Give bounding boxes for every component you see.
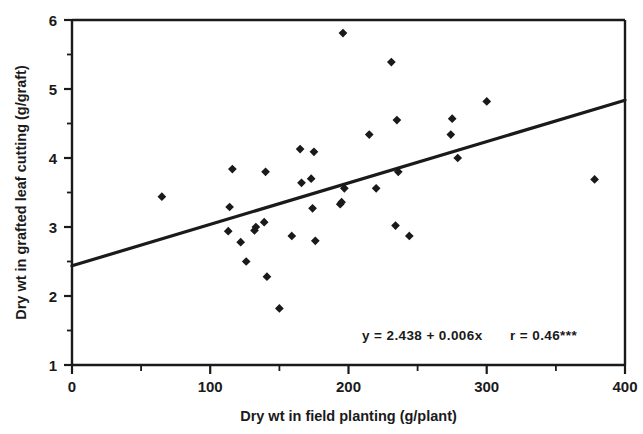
data-point — [159, 193, 166, 200]
x-axis-label: Dry wt in field planting (g/plant) — [240, 408, 457, 424]
data-point — [449, 115, 456, 122]
data-point — [262, 169, 269, 176]
data-point — [448, 131, 455, 138]
y-axis-label: Dry wt in grafted leaf cutting (g/graft) — [13, 65, 29, 320]
x-tick-label: 300 — [474, 378, 499, 395]
x-axis-ticks — [72, 365, 625, 374]
data-point — [237, 239, 244, 246]
x-tick-labels: 0 100 200 300 400 — [68, 378, 638, 395]
data-point — [366, 131, 373, 138]
data-point — [297, 146, 304, 153]
correlation-annotation: r = 0.46*** — [510, 328, 577, 343]
y-tick-label: 2 — [49, 288, 57, 305]
scatter-points — [159, 30, 598, 312]
data-point — [454, 155, 461, 162]
data-point — [388, 59, 395, 66]
data-point — [229, 166, 236, 173]
data-point — [289, 233, 296, 240]
y-tick-label: 3 — [49, 219, 57, 236]
y-tick-label: 1 — [49, 357, 57, 374]
equation-annotation: y = 2.438 + 0.006x — [362, 328, 483, 343]
y-tick-label: 6 — [49, 12, 57, 29]
data-point — [276, 305, 283, 312]
data-point — [264, 273, 271, 280]
data-point — [373, 185, 380, 192]
y-tick-labels: 1 2 3 4 5 6 — [49, 12, 58, 374]
regression-line — [72, 100, 625, 266]
data-point — [261, 219, 268, 226]
plot-canvas: 1 2 3 4 5 6 0 100 200 300 400 Dry wt in … — [0, 0, 643, 434]
data-point — [394, 117, 401, 124]
data-point — [312, 238, 319, 245]
data-point — [226, 204, 233, 211]
y-tick-label: 5 — [49, 81, 57, 98]
data-point — [311, 148, 318, 155]
data-point — [243, 258, 250, 265]
data-point — [591, 176, 598, 183]
data-point — [308, 175, 315, 182]
data-point — [483, 98, 490, 105]
data-point — [392, 222, 399, 229]
y-tick-label: 4 — [49, 150, 58, 167]
x-tick-label: 200 — [336, 378, 361, 395]
x-tick-label: 0 — [68, 378, 76, 395]
data-point — [298, 180, 305, 187]
x-tick-label: 400 — [612, 378, 637, 395]
data-point — [406, 233, 413, 240]
data-point — [225, 228, 232, 235]
data-point — [309, 205, 316, 212]
data-point — [340, 30, 347, 37]
scatter-plot-figure: 1 2 3 4 5 6 0 100 200 300 400 Dry wt in … — [0, 0, 643, 434]
plot-frame — [72, 20, 625, 365]
x-tick-label: 100 — [198, 378, 223, 395]
